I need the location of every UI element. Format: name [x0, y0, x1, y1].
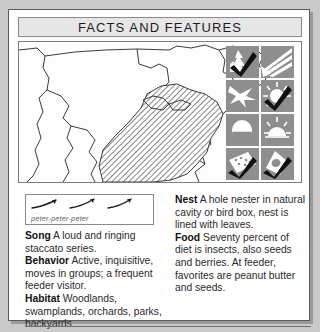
left-text-column: Song A loud and ringing staccato series.… — [25, 230, 165, 331]
right-text-column: Nest A hole nester in natural cavity or … — [175, 194, 308, 295]
fact-song-label: Song — [25, 230, 51, 241]
half-circle-icon[interactable] — [226, 114, 259, 146]
open-nest-icon[interactable] — [226, 148, 259, 180]
fact-habitat-label: Habitat — [25, 293, 60, 304]
fact-behavior-label: Behavior — [25, 255, 69, 266]
sun-feeder-icon[interactable] — [261, 80, 294, 112]
range-map-panel — [18, 41, 302, 183]
feature-icon-grid — [226, 46, 296, 180]
page-title: FACTS AND FEATURES — [78, 20, 242, 35]
sonogram-label: peter-peter-peter — [31, 214, 89, 223]
conifer-tree-icon[interactable] — [226, 46, 259, 78]
page-root: FACTS AND FEATURES — [0, 0, 320, 332]
fact-behavior: Behavior Active, inquisitive, moves in g… — [25, 255, 165, 293]
fact-song: Song A loud and ringing staccato series. — [25, 230, 165, 255]
fact-food: Food Seventy percent of diet is insects,… — [175, 232, 308, 295]
song-sonogram: peter-peter-peter — [25, 194, 154, 225]
bottom-divider — [25, 326, 311, 327]
fact-nest-label: Nest — [175, 194, 197, 205]
facts-and-features-card: FACTS AND FEATURES — [8, 9, 310, 321]
fact-food-label: Food — [175, 232, 200, 243]
cavity-nest-icon[interactable] — [261, 148, 294, 180]
open-field-icon[interactable] — [261, 46, 294, 78]
bird-flight-icon[interactable] — [226, 80, 259, 112]
card-header: FACTS AND FEATURES — [18, 17, 302, 37]
sunrise-dome-icon[interactable] — [261, 114, 294, 146]
fact-nest: Nest A hole nester in natural cavity or … — [175, 194, 308, 232]
